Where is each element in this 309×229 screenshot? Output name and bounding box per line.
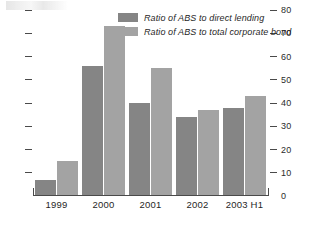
bar-group: [127, 10, 174, 196]
y-axis-right-tick: 20: [270, 145, 291, 155]
legend-swatch-icon-dark: [118, 13, 138, 22]
y-axis-right-tick: 40: [270, 98, 291, 108]
y-axis-tick-label: 10: [281, 168, 291, 178]
tick-dash: [25, 103, 32, 104]
y-axis-right-spine: [268, 188, 269, 196]
bar-direct-lending: [129, 103, 150, 196]
tick-dash: [270, 10, 277, 11]
y-axis-tick-label: 0: [281, 191, 286, 201]
tick-dash: [270, 103, 277, 104]
y-axis-left-tick: [25, 5, 32, 15]
x-axis-label: 2001: [127, 199, 174, 210]
bar-group: [80, 10, 127, 196]
y-axis-right-tick: 30: [270, 121, 291, 131]
bar-chart: 01020304050607080 19992000200120022003 H…: [0, 0, 309, 229]
y-axis-right-tick: 50: [270, 75, 291, 85]
tick-dash: [270, 172, 277, 173]
plot-area: [33, 10, 268, 196]
y-axis-tick-label: 60: [281, 52, 291, 62]
y-axis-left-tick: [25, 168, 32, 178]
bar-total-corporate-bond: [104, 26, 125, 196]
tick-dash: [270, 196, 277, 197]
y-axis-left-tick: [25, 28, 32, 38]
x-axis-line: [33, 195, 269, 196]
bar-direct-lending: [223, 108, 244, 196]
y-axis-left-tick: [25, 98, 32, 108]
y-axis-left-tick: [25, 52, 32, 62]
x-axis-label: 2002: [174, 199, 221, 210]
x-axis-label: 2003 H1: [221, 199, 268, 210]
bar-total-corporate-bond: [198, 110, 219, 196]
tick-dash: [25, 56, 32, 57]
bar-group: [221, 10, 268, 196]
x-axis-label: 2000: [80, 199, 127, 210]
legend-item-total-corporate-bond: Ratio of ABS to total corporate bond: [118, 26, 291, 37]
bar-total-corporate-bond: [57, 161, 78, 196]
y-axis-right-tick: 0: [270, 191, 286, 201]
tick-dash: [270, 126, 277, 127]
x-axis-label: 1999: [33, 199, 80, 210]
legend-label-direct-lending: Ratio of ABS to direct lending: [144, 13, 264, 23]
bar-total-corporate-bond: [245, 96, 266, 196]
bar-direct-lending: [82, 66, 103, 196]
legend-swatch-icon-light: [118, 27, 138, 36]
bar-group: [33, 10, 80, 196]
tick-dash: [270, 149, 277, 150]
tick-dash: [270, 79, 277, 80]
y-axis-right-tick: 10: [270, 168, 291, 178]
legend-label-total-corporate-bond: Ratio of ABS to total corporate bond: [144, 27, 291, 37]
bar-direct-lending: [176, 117, 197, 196]
legend-item-direct-lending: Ratio of ABS to direct lending: [118, 12, 291, 23]
tick-dash: [25, 79, 32, 80]
tick-dash: [25, 172, 32, 173]
y-axis-tick-label: 40: [281, 98, 291, 108]
y-axis-right-tick: 60: [270, 52, 291, 62]
tick-dash: [270, 56, 277, 57]
y-axis-left-tick: [25, 121, 32, 131]
x-axis-labels: 19992000200120022003 H1: [33, 199, 269, 215]
bar-direct-lending: [35, 180, 56, 196]
y-axis-left-tick: [25, 145, 32, 155]
y-axis-tick-label: 30: [281, 121, 291, 131]
y-axis-left-spine: [33, 188, 34, 196]
tick-dash: [25, 33, 32, 34]
y-axis-tick-label: 20: [281, 145, 291, 155]
bar-total-corporate-bond: [151, 68, 172, 196]
tick-dash: [25, 126, 32, 127]
y-axis-tick-label: 50: [281, 75, 291, 85]
tick-dash: [25, 10, 32, 11]
legend: Ratio of ABS to direct lending Ratio of …: [118, 12, 291, 37]
tick-dash: [25, 149, 32, 150]
y-axis-left-tick: [25, 75, 32, 85]
bar-group: [174, 10, 221, 196]
